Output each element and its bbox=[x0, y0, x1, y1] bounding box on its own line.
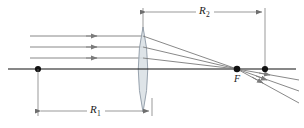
diverging-ray-1-arrow bbox=[259, 73, 270, 75]
diverging-ray-group bbox=[237, 69, 299, 103]
ray-diagram-figure: R 2 bbox=[0, 0, 304, 128]
incoming-ray-group bbox=[30, 36, 143, 58]
dimension-r1: R 1 bbox=[38, 69, 152, 118]
diagram-canvas: R 2 bbox=[0, 0, 304, 128]
refracted-ray-1 bbox=[143, 36, 237, 69]
dimension-r2: R 2 bbox=[143, 4, 265, 69]
dimension-label-r1: R bbox=[89, 103, 97, 115]
focal-point-dot bbox=[234, 66, 241, 73]
focal-point-label: F bbox=[233, 73, 241, 84]
refracted-ray-2 bbox=[143, 47, 237, 69]
refracted-ray-group bbox=[143, 36, 237, 69]
diverging-ray-2 bbox=[237, 69, 299, 91]
dimension-label-r2-subscript: 2 bbox=[206, 10, 210, 19]
diverging-ray-2-arrow bbox=[256, 76, 267, 80]
dimension-label-r1-subscript: 1 bbox=[97, 109, 101, 118]
refracted-ray-3 bbox=[143, 58, 237, 69]
dimension-label-r2: R bbox=[198, 4, 206, 16]
right-reference-dot bbox=[262, 66, 268, 72]
